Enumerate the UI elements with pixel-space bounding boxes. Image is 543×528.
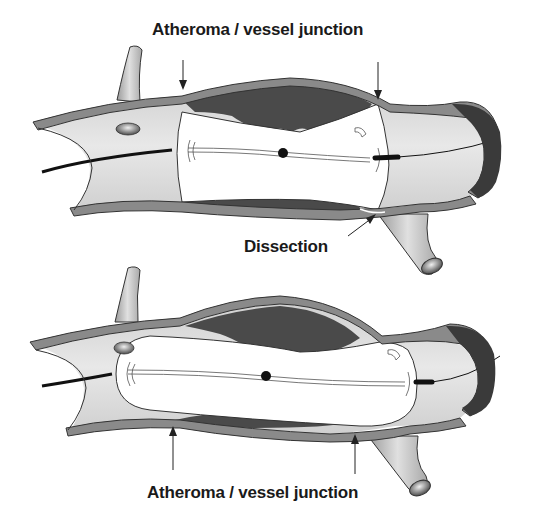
side-branch-upper <box>117 46 142 102</box>
label-dissection: Dissection <box>244 237 328 257</box>
balloon-marker <box>278 148 288 158</box>
side-branch-orifice <box>114 342 134 354</box>
bottom-panel <box>30 267 500 499</box>
catheter-tip <box>375 157 398 158</box>
side-branch-upper <box>115 267 140 322</box>
diagram-illustration <box>0 0 543 528</box>
side-branch-orifice <box>116 123 140 135</box>
label-junction-bottom: Atheroma / vessel junction <box>147 483 358 503</box>
balloon-marker <box>261 371 271 381</box>
angioplasty-diagram: Atheroma / vessel junction Dissection At… <box>0 0 543 528</box>
label-junction-top: Atheroma / vessel junction <box>152 20 363 40</box>
